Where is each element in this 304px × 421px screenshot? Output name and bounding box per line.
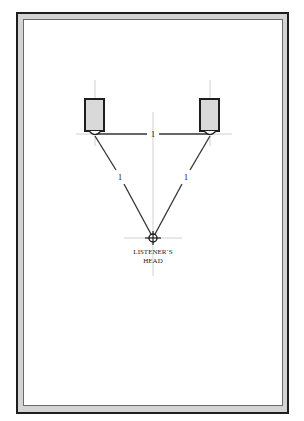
right-leg-lower	[154, 184, 182, 236]
listener-label-line2: HEAD	[143, 257, 162, 265]
triangle-legs	[95, 136, 210, 236]
left-leg-upper	[95, 136, 116, 170]
listener-head-icon	[145, 231, 161, 245]
left-speaker-cabinet	[85, 99, 104, 131]
left-distance-label: 1	[118, 172, 123, 182]
right-leg-upper	[190, 136, 210, 170]
left-speaker	[85, 99, 104, 135]
right-speaker	[200, 99, 219, 135]
listener-label-line1: LISTENER`S	[133, 248, 172, 256]
speaker-spacing-label: 1	[151, 129, 156, 139]
speaker-placement-diagram: 1 1 1 LISTENER`S HEAD	[0, 0, 304, 421]
right-speaker-cabinet	[200, 99, 219, 131]
left-leg-lower	[124, 184, 152, 236]
right-distance-label: 1	[184, 172, 189, 182]
